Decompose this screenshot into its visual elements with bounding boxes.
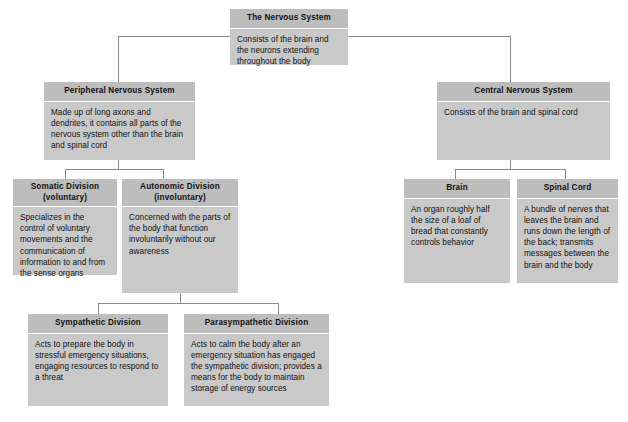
node-autonomic-division[interactable]: Autonomic Division (involuntary) Concern…: [122, 179, 238, 293]
connector-peripheral-to-autonomic: [163, 169, 164, 179]
node-spinal-cord[interactable]: Spinal Cord A bundle of nerves that leav…: [517, 179, 618, 283]
node-sympathetic-division[interactable]: Sympathetic Division Acts to prepare the…: [28, 314, 168, 406]
node-peripheral-nervous-system[interactable]: Peripheral Nervous System Made up of lon…: [44, 82, 195, 160]
node-central-nervous-system-title: Central Nervous System: [437, 82, 610, 102]
node-nervous-system-description: Consists of the brain and the neurons ex…: [230, 29, 348, 73]
node-somatic-division-title: Somatic Division (voluntary): [13, 179, 117, 207]
connector-autonomic-to-parasympathetic: [278, 303, 279, 314]
connector-central-to-spinal-cord: [565, 169, 566, 179]
node-somatic-division-title-line1: Somatic Division: [31, 182, 100, 191]
node-central-nervous-system[interactable]: Central Nervous System Consists of the b…: [437, 82, 610, 160]
node-parasympathetic-division[interactable]: Parasympathetic Division Acts to calm th…: [184, 314, 329, 406]
connector-central-stem: [510, 160, 511, 169]
node-somatic-division[interactable]: Somatic Division (voluntary) Specializes…: [13, 179, 117, 275]
node-central-nervous-system-description: Consists of the brain and spinal cord: [437, 102, 610, 123]
connector-peripheral-stem: [118, 160, 119, 169]
node-autonomic-division-title-line1: Autonomic Division: [140, 182, 220, 191]
node-parasympathetic-division-description: Acts to calm the body after an emergency…: [184, 334, 329, 400]
connector-root-to-central: [510, 36, 511, 82]
node-autonomic-division-title: Autonomic Division (involuntary): [122, 179, 238, 207]
node-somatic-division-description: Specializes in the control of voluntary …: [13, 207, 117, 284]
connector-autonomic-stem: [180, 293, 181, 303]
node-brain-description: An organ roughly half the size of a loaf…: [404, 199, 510, 254]
node-spinal-cord-title: Spinal Cord: [517, 179, 618, 199]
connector-central-to-brain: [455, 169, 456, 179]
connector-peripheral-horizontal: [65, 169, 164, 170]
node-peripheral-nervous-system-title: Peripheral Nervous System: [44, 82, 195, 102]
node-nervous-system-title: The Nervous System: [230, 9, 348, 29]
node-sympathetic-division-description: Acts to prepare the body in stressful em…: [28, 334, 168, 389]
node-somatic-division-title-line2: (voluntary): [43, 193, 87, 202]
connector-autonomic-to-sympathetic: [98, 303, 99, 314]
diagram-canvas: The Nervous System Consists of the brain…: [0, 0, 628, 422]
node-autonomic-division-title-line2: (involuntary): [154, 193, 206, 202]
connector-autonomic-horizontal: [98, 303, 278, 304]
node-nervous-system[interactable]: The Nervous System Consists of the brain…: [230, 9, 348, 65]
node-sympathetic-division-title: Sympathetic Division: [28, 314, 168, 334]
node-peripheral-nervous-system-description: Made up of long axons and dendrites, it …: [44, 102, 195, 157]
node-brain-title: Brain: [404, 179, 510, 199]
node-parasympathetic-division-title: Parasympathetic Division: [184, 314, 329, 334]
node-brain[interactable]: Brain An organ roughly half the size of …: [404, 179, 510, 283]
node-spinal-cord-description: A bundle of nerves that leaves the brain…: [517, 199, 618, 276]
connector-peripheral-to-somatic: [65, 169, 66, 179]
connector-root-to-peripheral: [118, 36, 119, 82]
node-autonomic-division-description: Concerned with the parts of the body tha…: [122, 207, 238, 262]
connector-central-horizontal: [455, 169, 565, 170]
